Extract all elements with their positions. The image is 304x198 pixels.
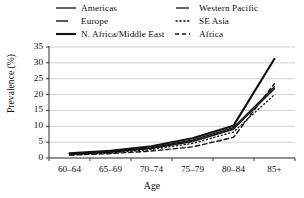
plot-canvas bbox=[0, 40, 304, 165]
x-tick-label-3: 75–79 bbox=[171, 164, 215, 174]
legend-line-sample-n-africa-middle-east bbox=[56, 29, 76, 39]
y-tick-label-25: 25 bbox=[27, 73, 43, 83]
legend-line-sample-americas bbox=[56, 3, 76, 13]
legend-item-europe: Europe bbox=[56, 15, 165, 27]
legend-item-western-pacific: Western Pacific bbox=[174, 2, 258, 14]
legend-label-europe: Europe bbox=[81, 16, 108, 26]
series-lines bbox=[70, 59, 275, 155]
y-tick-label-5: 5 bbox=[27, 136, 43, 146]
legend-column-left: Americas Europe N. Africa/Middle East bbox=[56, 2, 165, 41]
y-tick-label-30: 30 bbox=[27, 57, 43, 67]
legend-column-right: Western Pacific SE Asia Africa bbox=[174, 2, 258, 41]
series-line-n-africa-middle-east bbox=[70, 59, 275, 154]
series-line-americas bbox=[70, 87, 275, 154]
legend-item-africa: Africa bbox=[174, 28, 258, 40]
legend-line-sample-se-asia bbox=[174, 16, 194, 26]
x-tick-label-1: 65–69 bbox=[89, 164, 133, 174]
legend-item-se-asia: SE Asia bbox=[174, 15, 258, 27]
x-tick-label-5: 85+ bbox=[253, 164, 297, 174]
series-line-europe bbox=[70, 89, 275, 154]
x-axis-title: Age bbox=[0, 180, 304, 191]
legend-label-americas: Americas bbox=[81, 3, 117, 13]
x-tick-label-0: 60–64 bbox=[48, 164, 92, 174]
legend-label-n-africa-middle-east: N. Africa/Middle East bbox=[81, 29, 165, 39]
y-tick-label-35: 35 bbox=[27, 41, 43, 51]
legend-label-se-asia: SE Asia bbox=[199, 16, 229, 26]
chart-legend: Americas Europe N. Africa/Middle East bbox=[56, 2, 300, 40]
x-tick-label-4: 80–84 bbox=[212, 164, 256, 174]
y-tick-label-20: 20 bbox=[27, 89, 43, 99]
plot-area bbox=[0, 40, 304, 165]
legend-item-americas: Americas bbox=[56, 2, 165, 14]
y-tick-label-15: 15 bbox=[27, 104, 43, 114]
y-tick-label-0: 0 bbox=[27, 152, 43, 162]
legend-label-africa: Africa bbox=[199, 29, 223, 39]
legend-label-western-pacific: Western Pacific bbox=[199, 3, 258, 13]
chart-figure: Americas Europe N. Africa/Middle East bbox=[0, 0, 304, 198]
x-tick-label-2: 70–74 bbox=[130, 164, 174, 174]
legend-line-sample-western-pacific bbox=[174, 3, 194, 13]
y-tick-label-10: 10 bbox=[27, 120, 43, 130]
legend-line-sample-europe bbox=[56, 16, 76, 26]
y-axis-title: Prevalence (%) bbox=[5, 46, 16, 122]
legend-line-sample-africa bbox=[174, 29, 194, 39]
legend-item-n-africa-middle-east: N. Africa/Middle East bbox=[56, 28, 165, 40]
